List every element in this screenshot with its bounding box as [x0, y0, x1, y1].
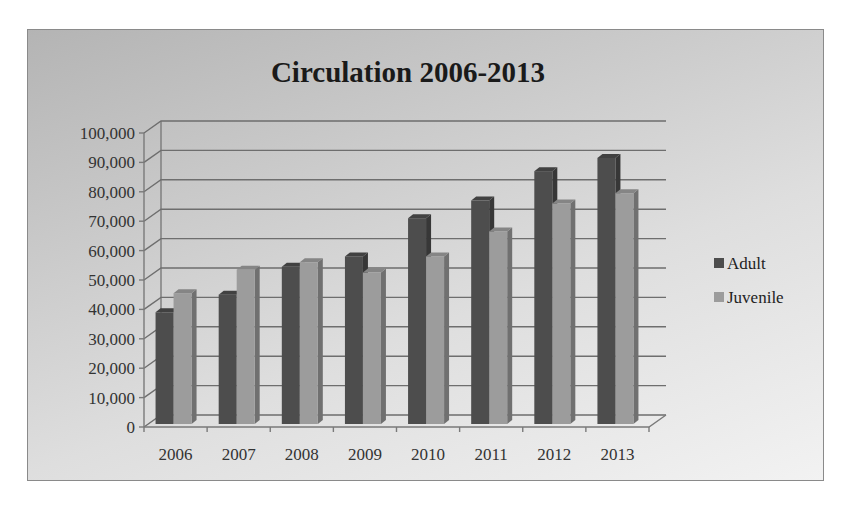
y-tick-label: 0 [127, 418, 136, 437]
gridline [144, 239, 666, 251]
y-tick-label: 70,000 [88, 212, 135, 231]
y-tick-label: 30,000 [88, 330, 135, 349]
x-tick-label: 2006 [159, 445, 193, 464]
y-tick-label: 40,000 [88, 300, 135, 319]
y-tick-label: 100,000 [80, 124, 135, 143]
bar-juvenile-2006 [174, 289, 197, 424]
legend-label-adult: Adult [727, 254, 766, 273]
gridline [144, 150, 666, 162]
y-axis: 010,00020,00030,00040,00050,00060,00070,… [80, 124, 144, 437]
y-tick-label: 20,000 [88, 359, 135, 378]
gridline [144, 121, 666, 133]
legend-swatch-adult [714, 258, 724, 268]
bar-juvenile-2008 [300, 258, 323, 424]
x-tick-label: 2010 [411, 445, 445, 464]
bar-juvenile-2011 [489, 227, 512, 424]
bars [156, 154, 639, 424]
legend-label-juvenile: Juvenile [727, 288, 784, 307]
x-tick-label: 2007 [222, 445, 257, 464]
gridline [144, 180, 666, 192]
chart-canvas: Circulation 2006-2013 010,00020,00030,00… [28, 30, 825, 482]
y-tick-label: 10,000 [88, 389, 135, 408]
x-tick-label: 2008 [285, 445, 319, 464]
legend: AdultJuvenile [714, 254, 784, 307]
bar-juvenile-2010 [426, 252, 449, 424]
y-tick-label: 60,000 [88, 242, 135, 261]
chart-title: Circulation 2006-2013 [271, 56, 545, 88]
y-tick-label: 80,000 [88, 183, 135, 202]
gridline [144, 209, 666, 221]
gridline [144, 268, 666, 280]
x-tick-label: 2012 [537, 445, 571, 464]
bar-juvenile-2012 [552, 200, 575, 425]
legend-swatch-juvenile [714, 292, 724, 302]
bar-juvenile-2007 [237, 266, 260, 424]
y-tick-label: 50,000 [88, 271, 135, 290]
y-tick-label: 90,000 [88, 153, 135, 172]
chart-area: Circulation 2006-2013 010,00020,00030,00… [27, 29, 824, 481]
x-tick-label: 2013 [600, 445, 634, 464]
x-tick-label: 2011 [475, 445, 508, 464]
bar-juvenile-2013 [615, 189, 638, 424]
bar-juvenile-2009 [363, 269, 386, 424]
x-tick-label: 2009 [348, 445, 382, 464]
